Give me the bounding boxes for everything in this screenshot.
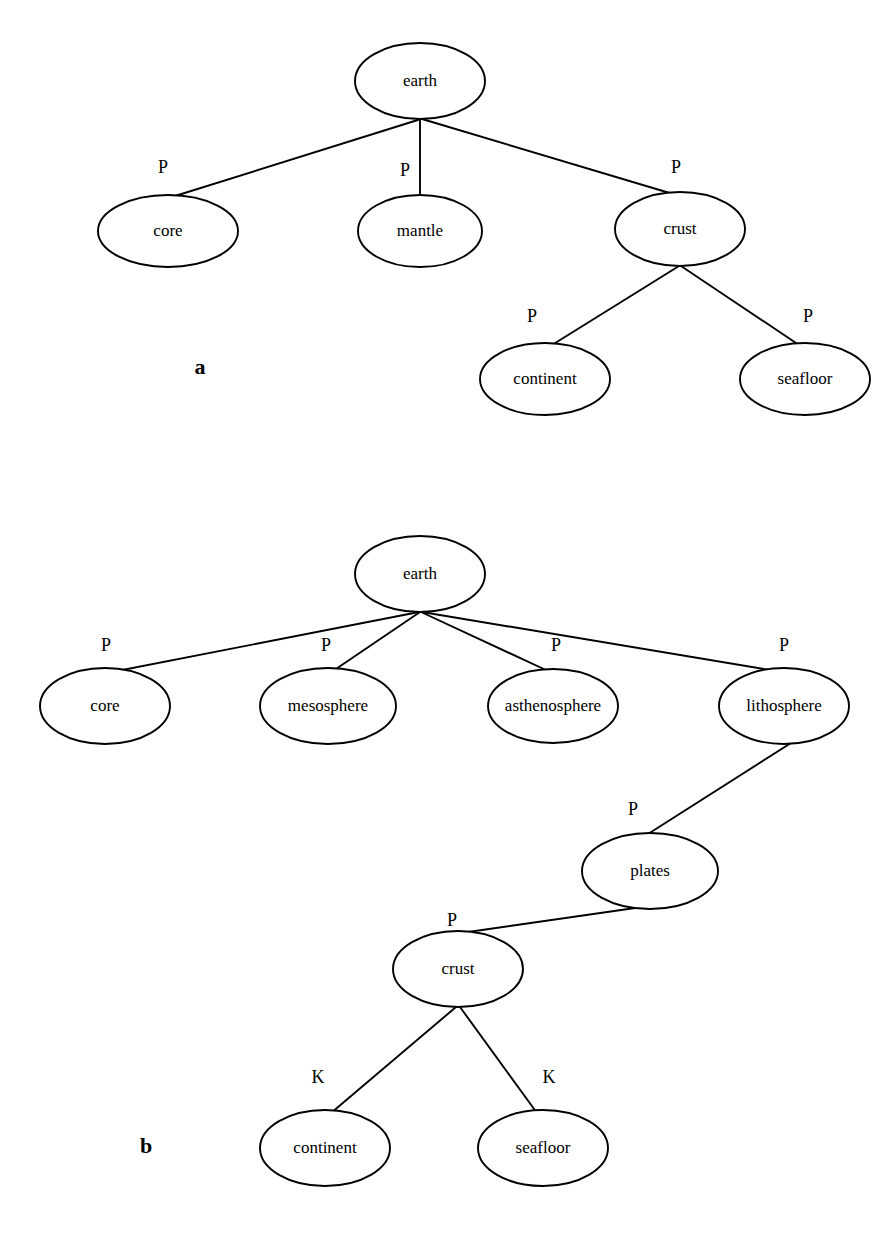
edge-label-b-edge-earth-core: P [101, 635, 111, 655]
node-label-a-seafloor: seafloor [778, 369, 833, 388]
node-label-b-lithosphere: lithosphere [746, 696, 822, 715]
edge-b-crust-to-b-seafloor [460, 1007, 537, 1113]
node-b-mesosphere[interactable]: mesosphere [260, 668, 396, 744]
node-label-b-crust: crust [441, 959, 474, 978]
edge-a-earth-to-a-core [175, 119, 421, 196]
node-b-lithosphere[interactable]: lithosphere [719, 668, 849, 744]
edge-label-b-edge-crust-continent: K [312, 1067, 325, 1087]
node-a-earth[interactable]: earth [355, 43, 485, 119]
node-b-crust[interactable]: crust [393, 931, 523, 1007]
edge-label-b-edge-earth-asthenosphere: P [551, 635, 561, 655]
edge-label-a-edge-earth-crust: P [671, 157, 681, 177]
edge-label-b-edge-earth-lithosphere: P [779, 635, 789, 655]
edge-b-earth-to-b-asthenosphere [421, 612, 548, 671]
node-label-a-core: core [153, 221, 182, 240]
node-label-b-core: core [90, 696, 119, 715]
edge-b-plates-to-b-crust [461, 906, 649, 933]
node-label-a-earth: earth [403, 71, 437, 90]
node-a-crust[interactable]: crust [615, 192, 745, 266]
semantic-network-figure: earthcoremantlecrustcontinentseafloorear… [0, 0, 893, 1239]
node-a-continent[interactable]: continent [480, 343, 610, 415]
edge-a-crust-to-a-seafloor [681, 266, 799, 345]
node-b-asthenosphere[interactable]: asthenosphere [488, 669, 618, 743]
edge-b-crust-to-b-continent [331, 1007, 456, 1113]
edge-label-b-edge-plates-crust: P [447, 910, 457, 930]
edge-a-crust-to-a-continent [552, 266, 679, 345]
diagram-canvas: earthcoremantlecrustcontinentseafloorear… [0, 0, 893, 1239]
node-a-core[interactable]: core [98, 195, 238, 267]
node-b-core[interactable]: core [40, 668, 170, 744]
node-label-b-seafloor: seafloor [516, 1138, 571, 1157]
panel-labels-layer: ab [140, 354, 206, 1158]
node-b-plates[interactable]: plates [582, 833, 718, 909]
edge-label-a-edge-crust-seafloor: P [803, 306, 813, 326]
edge-label-a-edge-earth-mantle: P [400, 160, 410, 180]
edge-label-a-edge-earth-core: P [158, 157, 168, 177]
nodes-layer: earthcoremantlecrustcontinentseafloorear… [40, 43, 870, 1186]
node-a-mantle[interactable]: mantle [358, 195, 482, 267]
node-b-continent[interactable]: continent [260, 1110, 390, 1186]
edge-label-b-edge-crust-seafloor: K [543, 1067, 556, 1087]
node-label-a-mantle: mantle [397, 221, 443, 240]
node-b-earth[interactable]: earth [355, 536, 485, 612]
edge-b-earth-to-b-lithosphere [422, 612, 776, 671]
node-label-a-continent: continent [513, 369, 577, 388]
edge-label-b-edge-lithosphere-plates: P [628, 799, 638, 819]
node-label-a-crust: crust [663, 219, 696, 238]
node-label-b-continent: continent [293, 1138, 357, 1157]
panel-label-b: b [140, 1133, 152, 1158]
edge-a-earth-to-a-crust [422, 119, 673, 194]
node-label-b-earth: earth [403, 564, 437, 583]
node-a-seafloor[interactable]: seafloor [740, 343, 870, 415]
node-label-b-plates: plates [630, 861, 670, 880]
edge-label-b-edge-earth-mesosphere: P [321, 635, 331, 655]
edge-b-earth-to-b-core [112, 612, 419, 672]
node-label-b-asthenosphere: asthenosphere [505, 696, 601, 715]
node-label-b-mesosphere: mesosphere [288, 696, 368, 715]
edge-b-lithosphere-to-b-plates [648, 743, 791, 834]
edge-label-a-edge-crust-continent: P [527, 306, 537, 326]
panel-label-a: a [195, 354, 206, 379]
node-b-seafloor[interactable]: seafloor [478, 1110, 608, 1186]
